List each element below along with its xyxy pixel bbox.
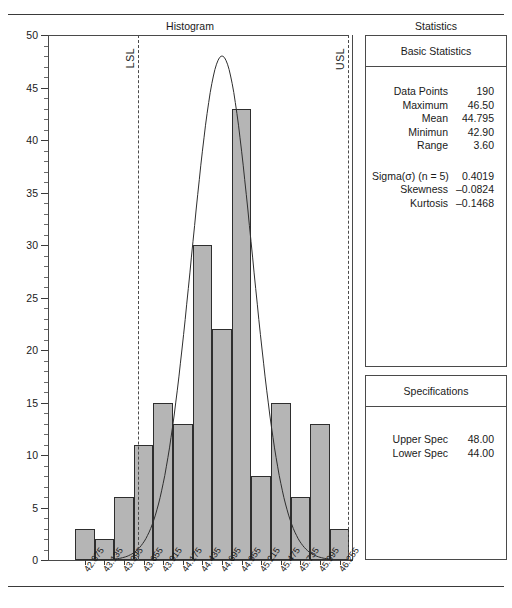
- stat-label: Range: [417, 139, 448, 153]
- top-divider-rule: [8, 14, 504, 15]
- stat-value: 44.795: [448, 112, 494, 126]
- stat-value: 190: [448, 85, 494, 99]
- y-axis-label: 35: [26, 187, 38, 199]
- stat-label: Mean: [422, 112, 448, 126]
- stat-value: 44.00: [448, 447, 494, 461]
- stat-row: Maximum46.50: [372, 99, 494, 113]
- y-axis-label: 30: [26, 239, 38, 251]
- specifications-rows: Upper Spec48.00Lower Spec44.00: [366, 407, 506, 460]
- y-tick-major: [41, 140, 48, 141]
- stat-row: Data Points190: [372, 85, 494, 99]
- basic-statistics-rows: Data Points190Maximum46.50Mean44.795Mini…: [366, 67, 506, 210]
- y-axis-label: 20: [26, 344, 38, 356]
- stat-row: Lower Spec44.00: [372, 447, 494, 461]
- y-axis-label: 45: [26, 82, 38, 94]
- y-axis-label: 40: [26, 134, 38, 146]
- y-axis-label: 0: [32, 554, 38, 566]
- normal-curve-path: [77, 56, 353, 560]
- stat-label: Minimun: [408, 126, 448, 140]
- y-tick-major: [41, 245, 48, 246]
- stat-label: Kurtosis: [410, 197, 448, 211]
- y-axis-label: 50: [26, 29, 38, 41]
- stat-label: Skewness: [400, 183, 448, 197]
- histogram-panel-title: Histogram: [30, 20, 350, 32]
- stat-row: Upper Spec48.00: [372, 433, 494, 447]
- stat-row: Sigma(σ) (n = 5)0.4019: [372, 170, 494, 184]
- y-tick-major: [41, 560, 48, 561]
- y-tick-major: [41, 455, 48, 456]
- y-axis-label: 15: [26, 397, 38, 409]
- y-tick-major: [41, 193, 48, 194]
- stat-label: Data Points: [394, 85, 448, 99]
- stat-label: Upper Spec: [393, 433, 448, 447]
- stat-row: Mean44.795: [372, 112, 494, 126]
- lsl-line: [138, 35, 139, 560]
- y-tick-major: [41, 35, 48, 36]
- stat-group-gap: [372, 153, 494, 170]
- stat-row: Range3.60: [372, 139, 494, 153]
- y-axis: 05101520253035404550: [0, 0, 48, 608]
- lsl-label: LSL: [124, 48, 136, 68]
- y-tick-major: [41, 350, 48, 351]
- stat-row: Minimun42.90: [372, 126, 494, 140]
- stat-row: Kurtosis–0.1468: [372, 197, 494, 211]
- usl-label: USL: [334, 48, 346, 70]
- bottom-divider-rule: [8, 586, 504, 587]
- y-tick-major: [41, 298, 48, 299]
- y-axis-label: 25: [26, 292, 38, 304]
- usl-line: [348, 35, 349, 560]
- stat-value: –0.0824: [448, 183, 494, 197]
- basic-statistics-heading: Basic Statistics: [366, 36, 506, 67]
- stat-value: 46.50: [448, 99, 494, 113]
- y-tick-major: [41, 88, 48, 89]
- stat-value: 48.00: [448, 433, 494, 447]
- stat-label: Sigma(σ) (n = 5): [372, 170, 449, 184]
- y-tick-major: [41, 403, 48, 404]
- specifications-panel: Specifications Upper Spec48.00Lower Spec…: [365, 375, 507, 560]
- stat-value: 3.60: [448, 139, 494, 153]
- specifications-heading: Specifications: [366, 376, 506, 407]
- statistics-panel-title: Statistics: [365, 20, 507, 32]
- normal-curve-svg: [48, 35, 353, 560]
- y-tick-major: [41, 508, 48, 509]
- stat-value: 0.4019: [449, 170, 494, 184]
- stat-label: Lower Spec: [393, 447, 448, 461]
- stat-label: Maximum: [402, 99, 448, 113]
- basic-statistics-panel: Basic Statistics Data Points190Maximum46…: [365, 35, 507, 367]
- y-axis-label: 10: [26, 449, 38, 461]
- y-axis-label: 5: [32, 502, 38, 514]
- stat-row: Skewness–0.0824: [372, 183, 494, 197]
- stat-value: 42.90: [448, 126, 494, 140]
- stat-value: –0.1468: [448, 197, 494, 211]
